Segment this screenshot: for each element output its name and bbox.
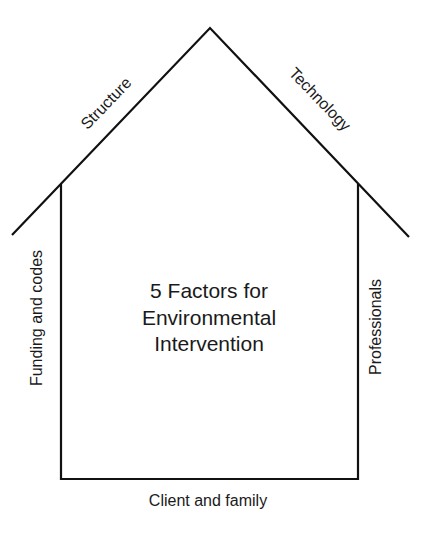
- label-funding-and-codes: Funding and codes: [28, 250, 45, 386]
- diagram-title-line-3: Intervention: [154, 332, 264, 355]
- label-professionals: Professionals: [367, 279, 384, 375]
- label-structure: Structure: [77, 74, 134, 133]
- label-technology: Technology: [286, 64, 354, 134]
- diagram-title-line-2: Environmental: [142, 306, 276, 329]
- label-client-and-family: Client and family: [149, 492, 267, 509]
- house-diagram: Structure Technology Funding and codes P…: [0, 0, 430, 535]
- diagram-title-line-1: 5 Factors for: [150, 279, 268, 302]
- roof-line: [12, 28, 409, 237]
